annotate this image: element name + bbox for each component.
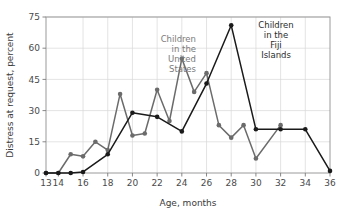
y-tick-label: 60 (29, 43, 41, 53)
y-tick-label: 15 (29, 137, 40, 147)
x-tick-label: 36 (324, 178, 336, 188)
annotation-line: United (168, 54, 196, 64)
x-tick-label: 14 (53, 178, 65, 188)
x-tick-labels: 13141618202224262830323436 (40, 178, 336, 188)
x-tick-label: 24 (176, 178, 188, 188)
annotation-line: Children (161, 34, 196, 44)
annotation-line: Fiji (270, 40, 281, 50)
data-point (229, 23, 234, 28)
data-point (229, 135, 234, 140)
y-tick-label: 0 (34, 168, 40, 178)
y-tick-label: 75 (29, 12, 40, 22)
data-point (254, 156, 259, 161)
data-point (130, 133, 135, 138)
y-tick-label: 45 (29, 75, 40, 85)
data-point (130, 110, 135, 115)
x-tick-label: 30 (250, 178, 262, 188)
series-annotation: Childrenin theFijiIslands (258, 20, 293, 60)
data-point (142, 131, 147, 136)
x-tick-label: 16 (77, 178, 89, 188)
x-tick-label: 26 (201, 178, 213, 188)
annotation-line: Children (258, 20, 293, 30)
data-point (118, 92, 123, 97)
data-point (68, 152, 73, 157)
data-point (217, 123, 222, 128)
data-point (56, 171, 61, 176)
chart-figure: 01530456075 13141618202224262830323436 C… (0, 0, 344, 215)
x-tick-label: 13 (40, 178, 51, 188)
data-point (155, 115, 160, 120)
data-point (105, 152, 110, 157)
series-annotations: Childrenin theUnitedStatesChildrenin the… (161, 20, 294, 74)
x-tick-label: 22 (151, 178, 162, 188)
annotation-line: in the (172, 44, 196, 54)
annotation-line: Islands (261, 50, 291, 60)
y-tick-label: 30 (29, 106, 41, 116)
data-point (328, 169, 333, 174)
data-point (278, 127, 283, 132)
data-point (278, 123, 283, 128)
data-point (81, 154, 86, 159)
data-point (155, 88, 160, 93)
x-tick-label: 20 (127, 178, 139, 188)
line-chart: 01530456075 13141618202224262830323436 C… (0, 0, 344, 215)
y-tick-labels: 01530456075 (29, 12, 41, 178)
data-point (192, 90, 197, 95)
annotation-line: States (169, 64, 196, 74)
x-tick-label: 18 (102, 178, 114, 188)
data-point (68, 171, 73, 176)
data-point (44, 171, 49, 176)
data-point (303, 127, 308, 132)
series-annotation: Childrenin theUnitedStates (161, 34, 197, 74)
x-tick-label: 32 (275, 178, 286, 188)
x-tick-label: 34 (300, 178, 312, 188)
data-point (81, 170, 86, 175)
data-point (204, 81, 209, 86)
data-series (44, 56, 283, 175)
data-point (254, 127, 259, 132)
data-point (241, 123, 246, 128)
x-axis-title: Age, months (159, 198, 216, 208)
data-point (180, 129, 185, 134)
data-point (204, 71, 209, 76)
y-axis-title: Distress at request, percent (5, 32, 15, 158)
data-point (93, 140, 98, 145)
annotation-line: in the (264, 30, 288, 40)
x-tick-label: 28 (225, 178, 237, 188)
